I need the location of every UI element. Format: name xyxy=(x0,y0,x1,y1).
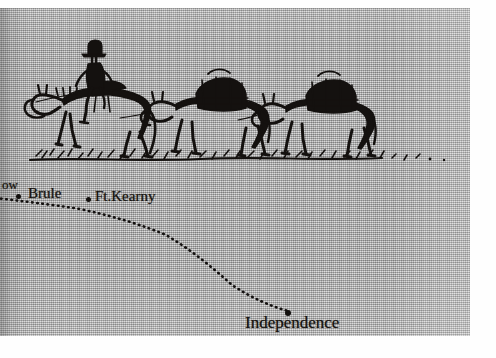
illustration-panel: ow Brule Ft.Kearny Independence xyxy=(0,8,470,336)
city-dot-ft-kearny[interactable] xyxy=(86,197,91,202)
trail-route-map xyxy=(0,8,470,336)
map-label-brule: Brule xyxy=(28,186,61,201)
map-label-ft-kearny: Ft.Kearny xyxy=(95,189,155,204)
map-label-independence: Independence xyxy=(245,314,339,331)
map-label-truncated: ow xyxy=(2,178,18,191)
scanned-page: ow Brule Ft.Kearny Independence xyxy=(0,0,496,358)
city-dot-brule[interactable] xyxy=(16,194,21,199)
dotted-trail-route xyxy=(0,198,288,311)
